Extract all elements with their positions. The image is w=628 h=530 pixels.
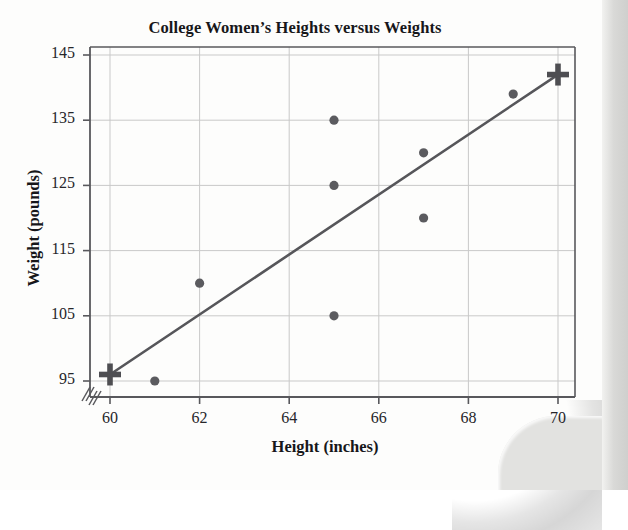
data-point [419,148,428,157]
y-tick-label: 135 [0,109,75,127]
axis-ticks [83,55,558,404]
x-tick-label: 62 [170,409,230,427]
x-tick-label: 60 [80,409,140,427]
x-tick-label: 70 [528,409,588,427]
horizontal-gridlines [90,55,575,381]
axis-break-slash [93,391,101,405]
axis-break-slash [82,387,90,401]
x-tick-label: 68 [438,409,498,427]
data-point [195,279,204,288]
data-point [329,116,338,125]
x-axis-title: Height (inches) [90,437,560,457]
data-point [150,376,159,385]
x-tick-label: 64 [259,409,319,427]
vertical-gridlines [110,47,558,397]
x-tick-label: 66 [349,409,409,427]
data-point [329,311,338,320]
data-points [150,90,518,386]
plot-frame [90,47,575,397]
y-tick-label: 145 [0,44,75,62]
data-point [419,213,428,222]
data-point [329,181,338,190]
axis-break-symbol [82,387,101,405]
data-point [509,90,518,99]
y-tick-label: 95 [0,370,75,388]
y-axis-title: Weight (pounds) [24,128,44,328]
